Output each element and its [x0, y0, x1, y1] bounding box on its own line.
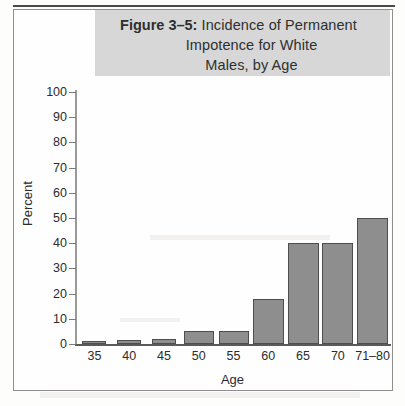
x-axis-tick-labels: 354045505560657071–80: [77, 349, 390, 369]
bar: [288, 243, 319, 344]
figure-title-banner: Figure 3–5: Incidence of Permanent Impot…: [95, 10, 390, 76]
x-axis-title: Age: [75, 372, 390, 387]
bar-series: [77, 92, 390, 344]
bar: [219, 331, 249, 344]
y-axis-tick: [69, 344, 76, 345]
y-axis-tick: [69, 168, 76, 169]
figure-title-rest: Incidence of Permanent: [197, 17, 356, 33]
y-axis-tick: [69, 92, 76, 93]
x-axis-tick-label: 71–80: [343, 349, 403, 363]
y-axis-tick-label: 10: [27, 313, 67, 325]
y-axis-tick: [69, 319, 76, 320]
bar: [117, 340, 141, 344]
figure-title-line-2: Impotence for White: [95, 35, 382, 55]
bar: [152, 339, 176, 344]
y-axis-tick: [69, 193, 76, 194]
bar: [253, 299, 284, 344]
y-axis-tick: [69, 243, 76, 244]
figure-number-label: Figure 3–5:: [120, 17, 197, 33]
y-axis-tick: [69, 117, 76, 118]
y-axis-tick-label: 0: [27, 338, 67, 350]
y-axis-tick: [69, 142, 76, 143]
y-axis-tick: [69, 218, 76, 219]
y-axis-tick-label: 100: [27, 86, 67, 98]
bar: [322, 243, 353, 344]
scan-smudge: [40, 392, 360, 398]
bar: [357, 218, 388, 344]
y-axis-tick-label: 80: [27, 136, 67, 148]
y-axis-tick-label: 20: [27, 288, 67, 300]
page-top-rule: [13, 5, 395, 7]
figure-title-line-3: Males, by Age: [95, 55, 382, 75]
y-axis-tick: [69, 294, 76, 295]
figure-title-line-1: Figure 3–5: Incidence of Permanent: [95, 15, 382, 35]
bar: [82, 341, 106, 344]
y-axis-title: Percent: [20, 164, 35, 244]
figure-container: Figure 3–5: Incidence of Permanent Impot…: [0, 0, 405, 406]
bar: [184, 331, 214, 344]
y-axis-tick: [69, 268, 76, 269]
y-axis-tick-label: 90: [27, 111, 67, 123]
y-axis-tick-label: 30: [27, 262, 67, 274]
x-axis-line: [75, 344, 391, 346]
